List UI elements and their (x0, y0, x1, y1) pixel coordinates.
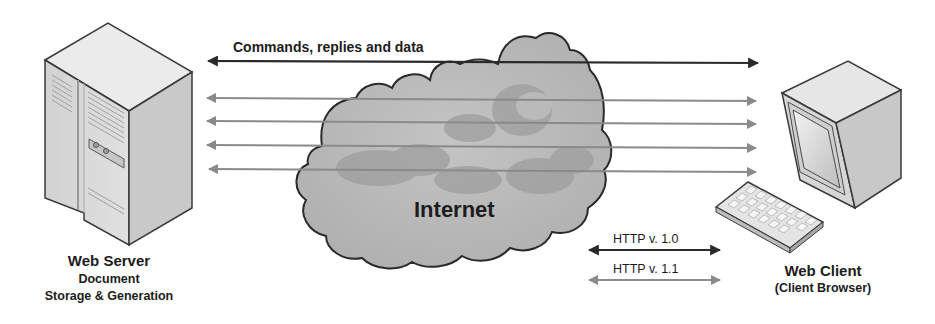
server-tower-icon (45, 23, 192, 245)
desktop-computer-icon (782, 61, 901, 208)
server-subtitle-line1: Document (34, 272, 184, 286)
main-data-arrow (208, 61, 758, 63)
client-name: Web Client (753, 262, 893, 279)
server-name: Web Server (34, 252, 184, 269)
server-subtitle-line2: Storage & Generation (24, 289, 194, 303)
main-connection-label: Commands, replies and data (233, 39, 424, 55)
cloud-icon (296, 33, 611, 268)
keyboard-icon (716, 182, 823, 253)
internet-label: Internet (414, 197, 495, 223)
client-subtitle: (Client Browser) (753, 281, 893, 295)
legend-http10-label: HTTP v. 1.0 (613, 232, 679, 246)
legend-http11-label: HTTP v. 1.1 (613, 262, 679, 276)
